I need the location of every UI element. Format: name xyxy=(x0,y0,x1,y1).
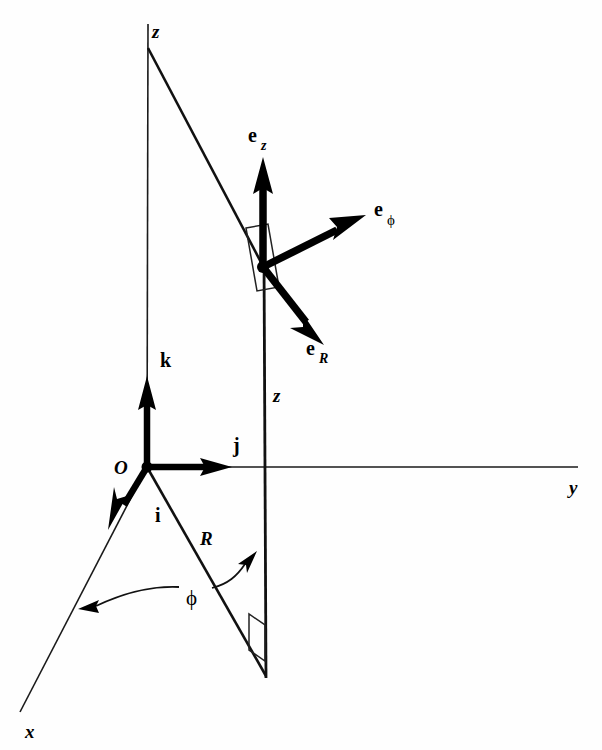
label-vector-e-phi-subscript: ϕ xyxy=(387,212,395,228)
diagram-canvas: z y x O i j k e z e ϕ e R z R xyxy=(0,0,602,750)
vector-e-phi-shaft xyxy=(263,230,337,267)
origin-node xyxy=(142,462,153,473)
label-vector-k: k xyxy=(160,349,172,371)
label-vector-j: j xyxy=(232,434,240,457)
label-angle-phi: ϕ xyxy=(186,586,197,610)
label-height-z: z xyxy=(272,385,281,406)
field-point-node xyxy=(257,261,269,273)
labels-group: z y x O i j k e z e ϕ e R z R xyxy=(24,21,578,742)
label-vector-i: i xyxy=(155,504,161,526)
right-angle-marker-base xyxy=(249,614,265,661)
label-vector-e-R-subscript: R xyxy=(318,351,328,366)
label-vector-e-z-base: e xyxy=(248,124,257,146)
cylindrical-triad-group xyxy=(253,157,366,345)
label-z-axis: z xyxy=(151,21,160,42)
vector-k-arrowhead xyxy=(138,376,156,410)
label-vector-e-z-subscript: z xyxy=(260,138,267,153)
vertical-height-line-z xyxy=(264,258,266,678)
label-vector-e-R-base: e xyxy=(306,337,315,359)
label-x-axis: x xyxy=(24,721,35,742)
phi-arc-right-segment xyxy=(212,564,245,588)
label-vector-e-z: e z xyxy=(248,124,267,153)
label-vector-e-phi-base: e xyxy=(374,198,383,220)
phi-arc-left-arrowhead xyxy=(78,600,99,613)
label-vector-e-phi: e ϕ xyxy=(374,198,395,228)
phi-arc-left-segment xyxy=(96,587,179,606)
cylindrical-coordinates-figure: z y x O i j k e z e ϕ e R z R xyxy=(0,0,602,750)
radial-distance-line-R xyxy=(147,467,266,676)
vector-e-R-shaft xyxy=(263,267,306,322)
axes-group xyxy=(20,24,578,712)
label-radial-distance-R: R xyxy=(199,528,213,549)
label-origin: O xyxy=(114,457,128,478)
phi-angle-arrow-group xyxy=(78,551,257,613)
label-y-axis: y xyxy=(567,477,578,498)
